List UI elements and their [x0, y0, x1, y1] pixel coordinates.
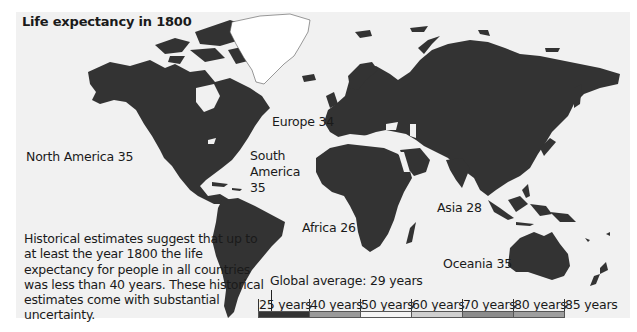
tick-40: 40 years	[309, 297, 363, 312]
global-average-label: Global average: 29 years	[270, 273, 423, 288]
legend-seg-25-40	[259, 312, 310, 317]
label-africa: Africa 26	[302, 220, 356, 236]
legend-seg-40-50	[310, 312, 361, 317]
tick-60: 60 years	[411, 297, 465, 312]
legend-color-bar	[258, 311, 565, 318]
greenland-shape	[230, 14, 310, 84]
legend-seg-60-70	[412, 312, 463, 317]
legend-seg-70-80	[463, 312, 514, 317]
australia-shape	[508, 232, 570, 280]
north-america-shape	[88, 60, 270, 204]
label-north-america: North America 35	[26, 149, 133, 165]
historical-note: Historical estimates suggest that up to …	[24, 231, 264, 323]
legend-seg-80-85	[514, 312, 564, 317]
label-asia: Asia 28	[437, 200, 482, 216]
label-south-america: South America 35	[250, 148, 300, 196]
label-oceania: Oceania 35	[443, 256, 512, 272]
tick-70: 70 years	[462, 297, 516, 312]
tick-25: 25 years	[258, 297, 312, 312]
legend-seg-50-60	[361, 312, 412, 317]
map-title: Life expectancy in 1800	[22, 14, 192, 29]
tick-50: 50 years	[360, 297, 414, 312]
tick-80: 80 years	[513, 297, 567, 312]
tick-85: 85 years	[564, 297, 618, 312]
label-europe: Europe 34	[272, 114, 334, 130]
